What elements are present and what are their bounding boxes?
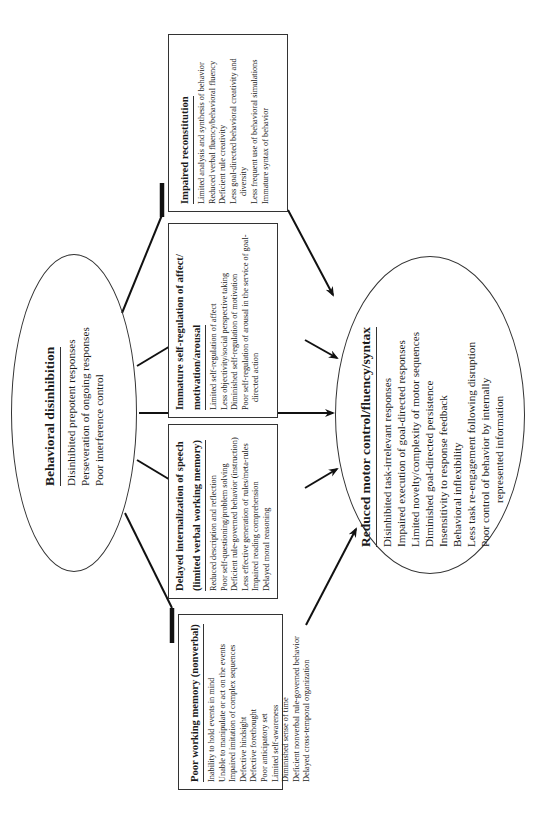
delayed-internalization-box: Delayed internalization of speech (limit… xyxy=(168,424,278,599)
motor-control-item: Limited novelty/complexity of motor sequ… xyxy=(408,327,422,547)
working-memory-item: Deficient nonverbal rule-governed behavi… xyxy=(292,621,303,782)
motor-control-item: Poor control of behavior by internally xyxy=(478,327,492,547)
reconstitution-item: Immature syntax of behavior xyxy=(261,41,272,204)
working-memory-item: Limited self-awareness xyxy=(271,621,282,782)
reconstitution-item: Reduced verbal fluency/behavioral fluenc… xyxy=(208,41,219,204)
poor-working-memory-box: Poor working memory (nonverbal) Inabilit… xyxy=(178,614,283,790)
working-memory-item: Delayed cross-temporal organization xyxy=(302,621,313,782)
motor-control-item-continuation: represented information xyxy=(492,327,506,547)
arrow-self-regulation-to-motor-control xyxy=(305,340,337,358)
immature-self-regulation-box: Immature self-regulation of affect/ moti… xyxy=(168,223,278,418)
working-memory-item: Impaired imitation of complex sequences xyxy=(228,621,239,782)
self-regulation-item: Poor self-regulation of arousal in the s… xyxy=(241,230,262,410)
motor-control-item: Disinhibited task-irrelevant responses xyxy=(380,327,394,547)
behavioral-disinhibition-ellipse: Behavioral disinhibition Disinhibited pr… xyxy=(11,254,137,572)
inhibitory-connector-impaired-reconstitution xyxy=(122,183,162,313)
delayed-internalization-title-line1: Delayed internalization of speech xyxy=(174,431,186,591)
motor-control-item: Diminished goal-directed persistence xyxy=(422,327,436,547)
impaired-reconstitution-title: Impaired reconstitution xyxy=(179,96,194,204)
impaired-reconstitution-box: Impaired reconstitution Limited analysis… xyxy=(168,34,288,212)
inhibitory-connector-delayed-internalization xyxy=(137,460,172,500)
motor-control-title: Reduced motor control/fluency/syntax xyxy=(358,327,377,547)
working-memory-item: Unable to manipulate or act on the event… xyxy=(218,621,229,782)
reconstitution-item: Deficient rule creativity xyxy=(218,41,229,204)
self-regulation-item: Diminished self-regulation of motivation xyxy=(230,230,241,410)
internalization-item: Reduced description and reflection xyxy=(209,431,220,591)
motor-control-item: Impaired execution of goal-directed resp… xyxy=(394,327,408,547)
arrow-reconstitution-to-motor-control xyxy=(288,210,333,295)
disinhibition-item: Poor interference control xyxy=(92,327,106,486)
self-regulation-title-line2: motivation/arousal xyxy=(191,325,206,410)
disinhibition-item: Disinhibited prepotent responses xyxy=(64,327,78,486)
working-memory-item: Defective hindsight xyxy=(239,621,250,782)
reconstitution-item: Less frequent use of behavioral simulati… xyxy=(250,41,261,204)
internalization-item: Delayed moral reasoning xyxy=(262,431,273,591)
motor-control-item: Insensitivity to response feedback xyxy=(436,327,450,547)
reconstitution-item: Limited analysis and synthesis of behavi… xyxy=(197,41,208,204)
self-regulation-title-line1: Immature self-regulation of affect/ xyxy=(174,230,186,410)
internalization-item: Impaired reading comprehension xyxy=(251,431,262,591)
internalization-item: Poor self-questioning/problem solving xyxy=(220,431,231,591)
reconstitution-item: Less goal-directed behavioral creativity… xyxy=(229,41,250,204)
self-regulation-item: Limited self-regulation of affect xyxy=(209,230,220,410)
inhibitory-connector-self-regulation xyxy=(137,325,172,366)
delayed-internalization-title-line2: (limited verbal working memory) xyxy=(191,440,206,591)
working-memory-item: Defective forethought xyxy=(249,621,260,782)
motor-control-item: Behavioral inflexibility xyxy=(450,327,464,547)
arrow-internalization-to-motor-control xyxy=(305,469,337,488)
working-memory-item: Inability to hold events in mind xyxy=(207,621,218,782)
working-memory-item: Diminished sense of time xyxy=(281,621,292,782)
self-regulation-item: Less objectivity/social perspective taki… xyxy=(220,230,231,410)
working-memory-item: Poor anticipatory set xyxy=(260,621,271,782)
reduced-motor-control-ellipse: Reduced motor control/fluency/syntax Dis… xyxy=(335,256,525,574)
behavioral-disinhibition-title: Behavioral disinhibition xyxy=(42,347,61,486)
poor-working-memory-title: Poor working memory (nonverbal) xyxy=(189,624,204,782)
arrow-working-memory-to-motor-control xyxy=(306,529,356,625)
internalization-item: Less effective generation of rules/meta-… xyxy=(241,431,252,591)
internalization-item: Deficient rule-governed behavior (instru… xyxy=(230,431,241,591)
disinhibition-item: Perseveration of ongoing responses xyxy=(78,327,92,486)
inhibitory-connector-working-memory xyxy=(125,513,172,643)
diagram-stage: Behavioral disinhibition Disinhibited pr… xyxy=(0,0,556,817)
motor-control-item: Less task re-engagement following disrup… xyxy=(464,327,478,547)
